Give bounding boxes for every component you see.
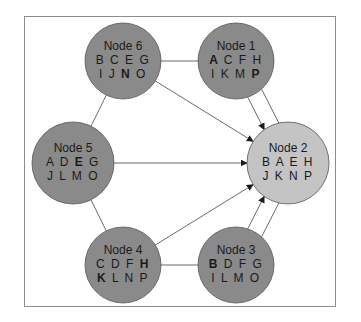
diagram-frame [24,16,336,307]
diagram-canvas: Node 6B C E GI J N ONode 1A C F HI K M P… [0,0,361,322]
